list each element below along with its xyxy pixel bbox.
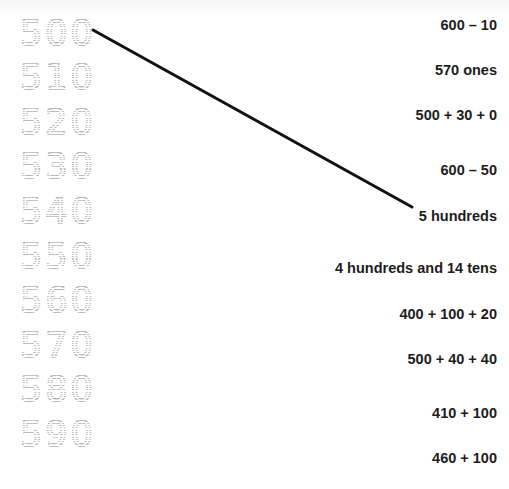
trace-number-row[interactable]: 560 — [20, 282, 130, 318]
trace-number-value: 500 — [20, 15, 130, 51]
trace-number-value: 580 — [20, 371, 130, 407]
answer-item[interactable]: 500 + 40 + 40 — [408, 350, 498, 368]
trace-number-row[interactable]: 500 — [20, 15, 130, 51]
trace-number-value: 560 — [20, 282, 130, 318]
trace-number-row[interactable]: 530 — [20, 148, 130, 184]
trace-number-row[interactable]: 570 — [20, 327, 130, 363]
answer-item[interactable]: 600 – 50 — [441, 161, 497, 179]
answer-item[interactable]: 5 hundreds — [419, 207, 497, 225]
answer-item[interactable]: 400 + 100 + 20 — [399, 305, 497, 323]
matching-line — [93, 30, 412, 207]
answer-item[interactable]: 410 + 100 — [432, 404, 497, 422]
trace-number-row[interactable]: 510 — [20, 59, 130, 95]
trace-number-row[interactable]: 550 — [20, 238, 130, 274]
trace-number-row[interactable]: 540 — [20, 193, 130, 229]
answer-item[interactable]: 600 – 10 — [441, 16, 497, 34]
trace-number-row[interactable]: 520 — [20, 104, 130, 140]
trace-number-value: 540 — [20, 193, 130, 229]
answer-item[interactable]: 4 hundreds and 14 tens — [335, 259, 497, 277]
trace-number-value: 550 — [20, 238, 130, 274]
answer-item[interactable]: 460 + 100 — [432, 449, 497, 467]
trace-number-value: 520 — [20, 104, 130, 140]
trace-number-value: 510 — [20, 59, 130, 95]
trace-number-row[interactable]: 580 — [20, 371, 130, 407]
trace-number-value: 570 — [20, 327, 130, 363]
trace-number-row[interactable]: 590 — [20, 416, 130, 452]
trace-number-value: 530 — [20, 148, 130, 184]
trace-number-value: 590 — [20, 416, 130, 452]
answer-item[interactable]: 500 + 30 + 0 — [416, 106, 497, 124]
answer-item[interactable]: 570 ones — [435, 61, 497, 79]
worksheet-canvas: 500 510 520 530 540 550 560 570 580 590 — [0, 0, 509, 489]
